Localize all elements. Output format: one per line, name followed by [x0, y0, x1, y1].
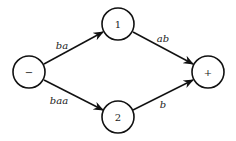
node-label-1: 1	[115, 19, 121, 30]
node-start-minus: −	[13, 56, 45, 88]
node-final-plus: +	[192, 56, 224, 88]
edge-label-ba: ba	[56, 40, 68, 51]
node-1: 1	[102, 8, 134, 40]
edge-label-baa: baa	[50, 95, 68, 106]
automaton-diagram: ba baa ab b − 1 2 +	[0, 0, 236, 141]
edge-label-ab: ab	[157, 33, 169, 44]
node-label-plus: +	[204, 67, 212, 78]
edge-minus-to-1: ba	[44, 32, 103, 64]
edge-minus-to-2: baa	[44, 80, 103, 110]
node-2: 2	[102, 101, 134, 133]
edge-label-b: b	[160, 99, 166, 110]
node-label-minus: −	[25, 67, 33, 78]
edge-2-to-plus: b	[133, 80, 193, 110]
node-label-2: 2	[115, 112, 121, 123]
edge-1-to-plus: ab	[133, 32, 193, 64]
